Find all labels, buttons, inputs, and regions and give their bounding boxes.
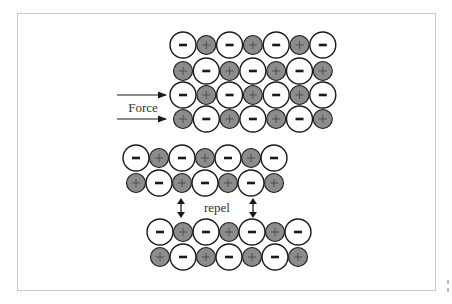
minus-icon: [132, 157, 140, 160]
cation-ion: [127, 174, 146, 193]
anion-ion: [193, 106, 219, 132]
double-arrow-icon: [249, 198, 257, 218]
cation-ion: [267, 62, 286, 81]
anion-ion: [147, 219, 173, 245]
minus-icon: [249, 70, 257, 73]
minus-icon: [155, 182, 163, 185]
minus-icon: [248, 231, 256, 234]
cation-ion: [220, 62, 239, 81]
cation-ion: [242, 149, 261, 168]
cation-ion: [313, 62, 332, 81]
anion-ion: [193, 58, 219, 84]
anion-ion: [146, 170, 172, 196]
cation-ion: [266, 223, 285, 242]
cation-ion: [174, 223, 193, 242]
anion-ion: [239, 219, 265, 245]
minus-icon: [225, 256, 233, 259]
repel-label: repel: [204, 200, 230, 215]
cation-ion: [196, 149, 215, 168]
cation-ion: [174, 110, 193, 129]
anion-ion: [215, 145, 241, 171]
minus-icon: [179, 44, 187, 47]
cation-ion: [220, 223, 239, 242]
cation-ion: [265, 174, 284, 193]
anion-ion: [217, 82, 243, 108]
ionic-lattice-diagram: Force repel: [0, 0, 452, 304]
minus-icon: [247, 182, 255, 185]
minus-icon: [224, 157, 232, 160]
cation-ion: [150, 149, 169, 168]
top-lattice: [170, 32, 336, 132]
anion-ion: [193, 219, 219, 245]
minus-icon: [201, 182, 209, 185]
cation-ion: [243, 86, 262, 105]
minus-icon: [272, 94, 280, 97]
anion-ion: [287, 58, 313, 84]
anion-ion: [240, 106, 266, 132]
double-arrow-icon: [177, 198, 185, 218]
minus-icon: [249, 118, 257, 121]
cation-ion: [290, 86, 309, 105]
anion-ion: [170, 244, 196, 270]
cation-ion: [173, 174, 192, 193]
shifted-upper-layer: [123, 145, 287, 196]
force-arrows: Force: [117, 95, 166, 119]
anion-ion: [238, 170, 264, 196]
cation-ion: [151, 248, 170, 267]
minus-icon: [296, 118, 304, 121]
minus-icon: [294, 231, 302, 234]
force-label: Force: [128, 100, 158, 115]
shifted-lower-layer: [147, 219, 311, 270]
anion-ion: [285, 219, 311, 245]
minus-icon: [226, 94, 234, 97]
cation-ion: [197, 36, 216, 55]
anion-ion: [217, 32, 243, 58]
minus-icon: [226, 44, 234, 47]
minus-icon: [202, 118, 210, 121]
anion-ion: [261, 145, 287, 171]
cation-ion: [220, 110, 239, 129]
anion-ion: [310, 82, 336, 108]
anion-ion: [263, 82, 289, 108]
anion-ion: [240, 58, 266, 84]
minus-icon: [272, 44, 280, 47]
anion-ion: [262, 244, 288, 270]
minus-icon: [319, 44, 327, 47]
minus-icon: [178, 157, 186, 160]
anion-ion: [263, 32, 289, 58]
cation-ion: [197, 86, 216, 105]
cation-ion: [243, 36, 262, 55]
anion-ion: [310, 32, 336, 58]
minus-icon: [270, 157, 278, 160]
anion-ion: [192, 170, 218, 196]
anion-ion: [170, 82, 196, 108]
anion-ion: [170, 32, 196, 58]
cation-ion: [197, 248, 216, 267]
cation-ion: [289, 248, 308, 267]
cation-ion: [313, 110, 332, 129]
minus-icon: [296, 70, 304, 73]
anion-ion: [123, 145, 149, 171]
minus-icon: [202, 70, 210, 73]
cation-ion: [290, 36, 309, 55]
anion-ion: [169, 145, 195, 171]
cation-ion: [219, 174, 238, 193]
cation-ion: [267, 110, 286, 129]
minus-icon: [179, 94, 187, 97]
minus-icon: [319, 94, 327, 97]
minus-icon: [156, 231, 164, 234]
repel-indicator: repel: [177, 198, 257, 218]
minus-icon: [271, 256, 279, 259]
cation-ion: [174, 62, 193, 81]
minus-icon: [179, 256, 187, 259]
anion-ion: [287, 106, 313, 132]
minus-icon: [202, 231, 210, 234]
anion-ion: [216, 244, 242, 270]
cation-ion: [243, 248, 262, 267]
